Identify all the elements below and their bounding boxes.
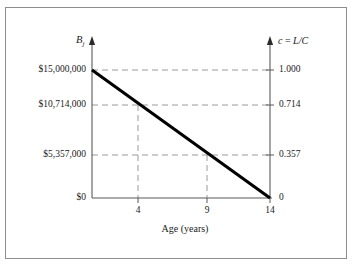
right-axis-title-expression: L/C [293, 35, 308, 46]
x-tick-label-9: 9 [197, 206, 217, 216]
right-axis-title-var: c [278, 35, 282, 46]
x-tick-label-4: 4 [128, 206, 148, 216]
left-tick-label-10714000: $10,714,000 [8, 100, 86, 110]
left-axis-arrow-icon [89, 36, 95, 45]
right-tick-label-0: 0 [279, 193, 284, 203]
x-axis-title: Age (years) [125, 224, 245, 234]
right-tick-label-0714: 0.714 [279, 100, 300, 110]
left-axis-title: Bj [76, 35, 84, 48]
right-tick-label-1000: 1.000 [279, 65, 300, 75]
left-tick-label-5357000: $5,357,000 [8, 150, 86, 160]
series-book-value-line [92, 70, 270, 198]
right-tick-label-0357: 0.357 [279, 150, 300, 160]
right-axis-title-equals: = [285, 35, 291, 46]
left-tick-label-15000000: $15,000,000 [8, 65, 86, 75]
figure-container: Bj c = L/C $15,000,000 $10,714,000 $5,35… [0, 0, 354, 266]
right-axis-arrow-icon [267, 36, 273, 45]
left-axis-title-subscript: j [82, 40, 84, 48]
right-axis-title: c = L/C [278, 36, 308, 46]
x-tick-label-14: 14 [260, 206, 280, 216]
left-tick-label-0: $0 [8, 193, 86, 203]
